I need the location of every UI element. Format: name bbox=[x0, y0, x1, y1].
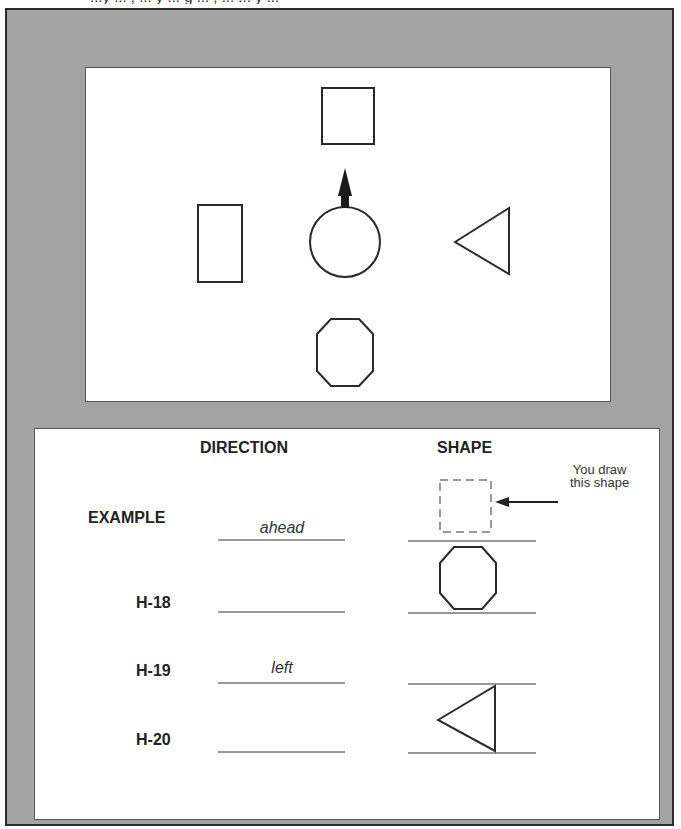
octagon-shape-h18 bbox=[440, 547, 496, 609]
dashed-square-example-shape bbox=[440, 480, 491, 532]
clipped-instruction-text: ...y ... , ... y ... g ... , ... ... y .… bbox=[90, 0, 279, 4]
circle-shape-center bbox=[310, 207, 380, 277]
answer-lines-and-shapes bbox=[35, 429, 661, 821]
triangle-shape-h20 bbox=[438, 686, 495, 751]
you-draw-this-shape-note: You draw this shape bbox=[570, 463, 629, 489]
arrow-up-icon bbox=[338, 168, 352, 208]
worksheet-frame: DIRECTION SHAPE EXAMPLE H-18 H-19 H-20 a… bbox=[5, 8, 674, 826]
answer-panel: DIRECTION SHAPE EXAMPLE H-18 H-19 H-20 a… bbox=[34, 428, 660, 820]
square-shape-ahead bbox=[322, 88, 374, 144]
octagon-shape-behind bbox=[317, 319, 373, 386]
note-line-2: this shape bbox=[570, 476, 629, 489]
rectangle-shape-left bbox=[198, 205, 242, 282]
arrow-left-icon bbox=[495, 497, 558, 507]
triangle-shape-right bbox=[455, 208, 509, 274]
shape-map-panel bbox=[85, 67, 611, 402]
top-text-clipped: ...y ... , ... y ... g ... , ... ... y .… bbox=[0, 0, 681, 4]
shape-map-drawing bbox=[86, 68, 612, 403]
